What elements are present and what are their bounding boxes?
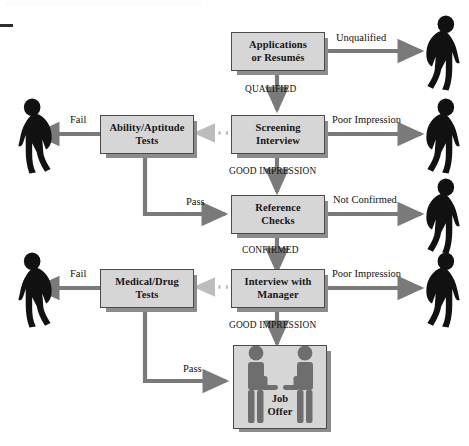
- arrow-pass-ability: [145, 155, 225, 214]
- box-job-offer[interactable]: Job Offer: [233, 345, 327, 429]
- box-interview-with-manager[interactable]: Interview with Manager: [231, 269, 325, 308]
- label-good-impression-manager: GOOD IMPRESSION: [229, 320, 316, 330]
- box-reference-line1: Reference: [255, 202, 301, 213]
- label-poor-impression-manager: Poor Impression: [332, 268, 401, 279]
- scan-artifact-left-dash: [0, 24, 13, 27]
- label-unqualified: Unqualified: [336, 32, 386, 43]
- box-offer-line2: Offer: [268, 406, 293, 417]
- label-not-confirmed: Not Confirmed: [333, 194, 397, 205]
- label-pass-ability: Pass: [186, 196, 205, 207]
- figure-rejected-unqualified: [426, 15, 459, 90]
- scan-artifact-top-edge: [6, 1, 201, 6]
- flowchart-canvas: Applications or Resumés Screening Interv…: [0, 0, 469, 446]
- box-manager-line1: Interview with: [244, 276, 311, 287]
- box-reference-checks[interactable]: Reference Checks: [231, 195, 325, 234]
- box-screening-interview[interactable]: Screening Interview: [231, 115, 325, 154]
- box-applications[interactable]: Applications or Resumés: [231, 32, 325, 71]
- label-good-impression-screening: GOOD IMPRESSION: [229, 166, 316, 176]
- figure-rejected-fail-ability: [18, 98, 51, 173]
- box-medical-drug-tests[interactable]: Medical/Drug Tests: [100, 269, 194, 308]
- box-medical-line1: Medical/Drug: [115, 276, 179, 287]
- box-manager-line2: Manager: [257, 289, 299, 300]
- label-fail-medical: Fail: [70, 268, 86, 279]
- box-offer-line1: Job: [272, 393, 289, 404]
- figure-rejected-poor-impression-manager: [426, 252, 459, 327]
- box-ability-line2: Tests: [136, 135, 159, 146]
- box-screening-line2: Interview: [256, 135, 300, 146]
- box-applications-line1: Applications: [249, 39, 307, 50]
- label-fail-ability: Fail: [70, 114, 86, 125]
- box-ability-aptitude-tests[interactable]: Ability/Aptitude Tests: [100, 115, 194, 154]
- figure-rejected-poor-impression-screening: [426, 98, 459, 173]
- figure-rejected-not-confirmed: [426, 178, 459, 253]
- label-poor-impression-screening: Poor Impression: [332, 114, 401, 125]
- label-qualified: QUALIFIED: [245, 84, 296, 94]
- box-applications-line2: or Resumés: [251, 52, 304, 63]
- box-reference-line2: Checks: [261, 215, 294, 226]
- label-confirmed: CONFIRMED: [242, 245, 299, 255]
- label-pass-medical: Pass: [183, 363, 202, 374]
- box-medical-line2: Tests: [136, 289, 159, 300]
- box-screening-line1: Screening: [255, 122, 300, 133]
- box-ability-line1: Ability/Aptitude: [109, 122, 184, 133]
- figure-rejected-fail-medical: [18, 252, 51, 327]
